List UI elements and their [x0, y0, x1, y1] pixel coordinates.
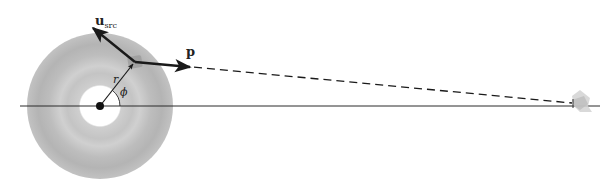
diagram-svg: [0, 0, 616, 185]
phi-label: ϕ: [120, 86, 128, 99]
u-src-label-sub: src: [104, 21, 116, 30]
observer-eye-icon: [572, 90, 592, 112]
p-label: p: [186, 44, 195, 59]
light-path-dashed: [194, 67, 572, 103]
r-label: r: [113, 73, 118, 86]
central-mass-dot: [96, 102, 104, 110]
u-src-label: usrc: [95, 13, 117, 28]
diagram-canvas: usrc p r ϕ: [0, 0, 616, 185]
